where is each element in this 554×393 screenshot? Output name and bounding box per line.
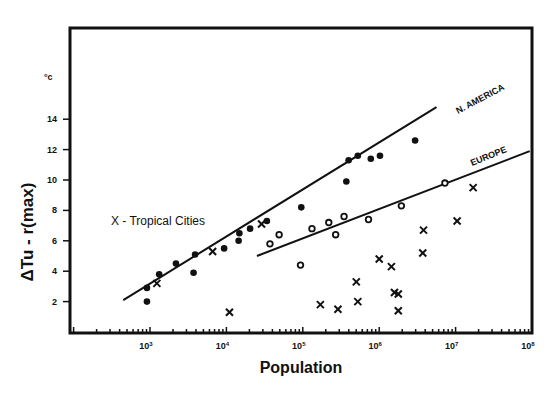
data-point-open [442, 180, 448, 186]
x-tick-label: 103 [139, 341, 153, 351]
data-point-filled [236, 230, 243, 237]
data-point-filled [192, 251, 199, 258]
y-tick-label: 12 [47, 145, 57, 155]
data-point-filled [247, 225, 254, 232]
data-point-cross [353, 278, 360, 285]
data-point-cross [420, 227, 427, 234]
fit-line-n-america [123, 107, 436, 300]
data-point-cross [376, 256, 383, 263]
data-point-cross [470, 184, 477, 191]
data-point-filled [412, 137, 419, 144]
data-point-filled [355, 152, 362, 159]
data-point-cross [209, 248, 216, 255]
data-point-filled [221, 245, 228, 252]
data-point-cross [258, 221, 265, 228]
data-point-filled [173, 260, 180, 267]
data-point-filled [144, 285, 151, 292]
x-tick-label: 106 [369, 341, 383, 351]
data-point-cross [454, 218, 461, 225]
data-point-filled [377, 152, 384, 159]
legend-tropical-cities: X - Tropical Cities [111, 214, 205, 228]
data-point-filled [144, 298, 151, 305]
y-tick-label: 10 [47, 175, 57, 185]
data-point-filled [190, 269, 197, 276]
data-point-filled [156, 271, 163, 278]
data-point-filled [367, 155, 374, 162]
data-point-open [276, 232, 282, 238]
fit-line-europe [257, 151, 530, 256]
y-tick-label: 14 [47, 114, 57, 124]
data-point-open [333, 232, 339, 238]
data-point-cross [354, 298, 361, 305]
data-point-filled [298, 204, 305, 211]
data-point-cross [226, 309, 233, 316]
data-point-open [298, 262, 304, 268]
data-point-cross [395, 307, 402, 314]
x-tick-label: 105 [292, 341, 306, 351]
data-point-cross [153, 280, 160, 287]
plot-frame [70, 28, 532, 333]
data-point-open [309, 226, 315, 232]
data-point-open [366, 217, 372, 223]
x-tick-label: 108 [521, 341, 535, 351]
y-axis-tick-labels: 2468101214 [47, 114, 57, 306]
data-point-filled [343, 178, 350, 185]
data-point-cross [419, 249, 426, 256]
data-point-open [326, 220, 332, 226]
x-axis-tick-labels: 103104105106107108 [139, 341, 535, 351]
y-unit-label: °c [44, 72, 53, 82]
y-tick-label: 4 [52, 266, 57, 276]
series-label-north-america: N. AMERICA [454, 82, 506, 116]
data-point-cross [388, 263, 395, 270]
x-tick-label: 107 [445, 341, 459, 351]
data-point-cross [317, 301, 324, 308]
data-point-filled [345, 157, 352, 164]
x-tick-label: 104 [216, 341, 230, 351]
y-axis-title: ΔTu - r(max) [18, 183, 37, 282]
data-point-filled [235, 238, 242, 245]
data-point-open [399, 203, 405, 209]
y-tick-label: 8 [52, 205, 57, 215]
data-point-open [341, 214, 347, 220]
x-axis-title: Population [260, 359, 343, 376]
data-point-open [267, 241, 273, 247]
y-tick-label: 2 [52, 297, 57, 307]
y-tick-label: 6 [52, 236, 57, 246]
data-point-cross [334, 306, 341, 313]
chart: 103104105106107108 2468101214 °c ΔTu - r… [0, 0, 554, 393]
fit-lines [123, 107, 529, 300]
series-label-europe: EUROPE [469, 144, 508, 168]
